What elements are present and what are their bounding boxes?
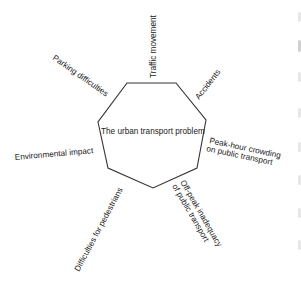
- scan-artifact: [298, 108, 301, 118]
- label-pedestrians: Difficulties for pedestrians: [73, 186, 125, 273]
- scan-artifact: [298, 40, 301, 52]
- scan-artifact: [298, 240, 301, 250]
- label-traffic-movement: Traffic movement: [149, 14, 158, 78]
- urban-transport-diagram: The urban transport problem Traffic move…: [0, 0, 301, 283]
- center-label: The urban transport problem: [101, 127, 205, 136]
- scan-artifact: [298, 72, 301, 82]
- scan-artifact: [298, 175, 301, 185]
- scan-artifact: [298, 142, 301, 152]
- label-environmental: Environmental impact: [14, 146, 94, 162]
- label-parking: Parking difficulties: [51, 53, 110, 98]
- label-accidents: Accidents: [193, 68, 222, 102]
- scan-artifact: [298, 12, 301, 22]
- scan-artifact: [298, 208, 301, 218]
